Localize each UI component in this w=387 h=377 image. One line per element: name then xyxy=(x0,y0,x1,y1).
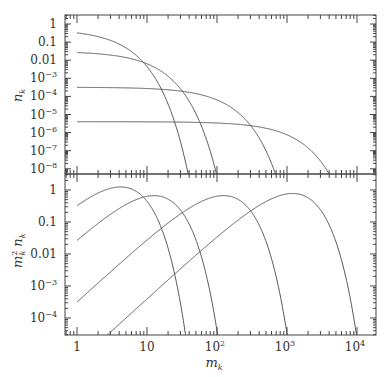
figure: 10.10.0110−310−410−510−610−710−8 10.10.0… xyxy=(0,0,387,377)
curve-2 xyxy=(77,53,225,214)
curve-3 xyxy=(77,196,293,375)
y-tick-label: 10−4 xyxy=(30,310,57,325)
curve-3 xyxy=(77,87,287,213)
y-tick-label: 0.01 xyxy=(30,247,57,261)
plot-frame xyxy=(65,15,376,174)
x-tick-label: 102 xyxy=(205,339,225,354)
bottom-panel: 10.10.0110−310−4 xyxy=(30,174,376,374)
top-panel: 10.10.0110−310−410−510−610−710−8 xyxy=(30,15,376,214)
plot-frame xyxy=(65,174,376,335)
top-y-axis-label: nk xyxy=(10,89,27,102)
x-tick-label: 104 xyxy=(345,339,365,354)
curves xyxy=(77,33,346,214)
x-axis-label: mk xyxy=(205,355,222,372)
y-axis-labels: nk m2knk xyxy=(10,89,27,268)
y-tick-label: 0.1 xyxy=(38,35,57,49)
y-tick-label: 10−6 xyxy=(30,125,57,140)
y-tick-label: 0.01 xyxy=(30,53,57,67)
y-tick-label: 10−3 xyxy=(30,278,57,293)
x-tick-labels: 110102103104 xyxy=(73,339,365,354)
y-tick-label: 10−4 xyxy=(30,88,57,103)
y-tick-label: 10−5 xyxy=(30,107,57,122)
y-tick-label: 0.1 xyxy=(38,215,57,229)
x-tick-label: 103 xyxy=(275,339,295,354)
x-tick-label: 10 xyxy=(139,340,154,354)
y-tick-label: 10−8 xyxy=(30,161,57,176)
y-tick-label: 10−7 xyxy=(30,143,57,158)
y-tick-label: 1 xyxy=(49,183,57,197)
y-tick-label: 1 xyxy=(49,17,57,31)
curve-1 xyxy=(77,187,191,374)
y-tick-label: 10−3 xyxy=(30,70,57,85)
curve-4 xyxy=(77,122,346,213)
bottom-y-axis-label: m2knk xyxy=(10,233,27,268)
x-tick-label: 1 xyxy=(73,340,81,354)
